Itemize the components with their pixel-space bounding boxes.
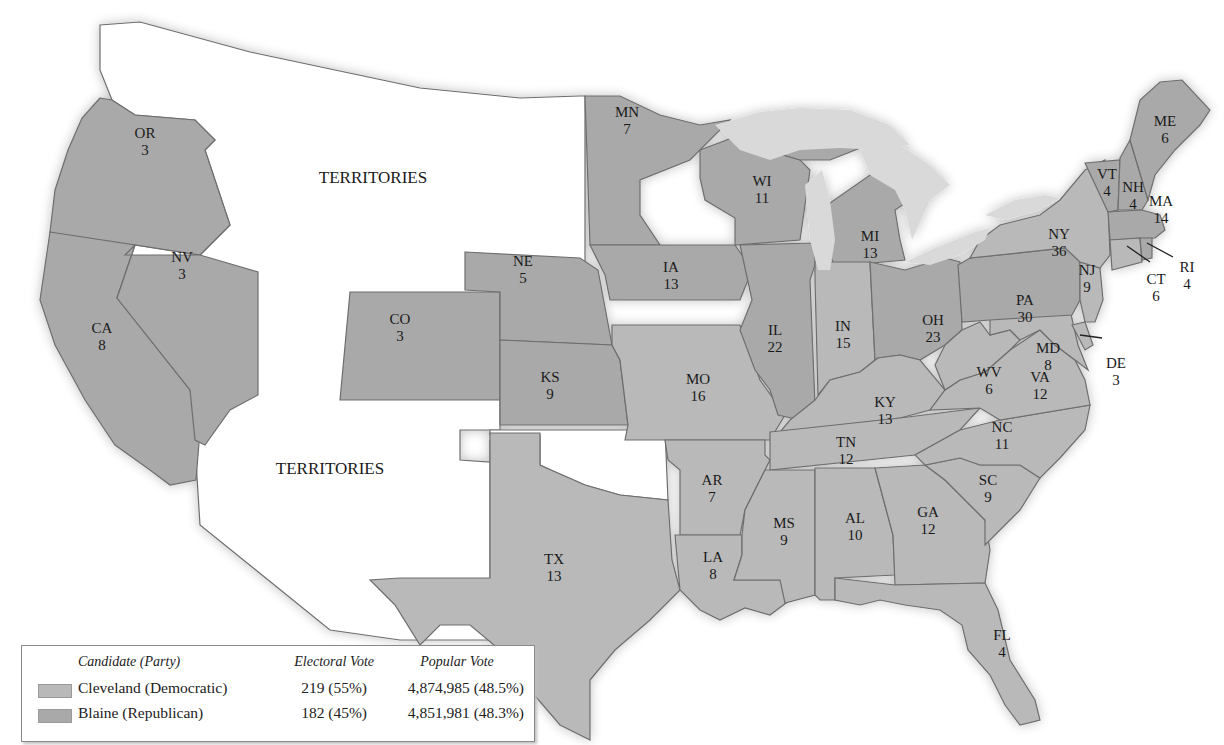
legend-header-candidate: Candidate (Party) bbox=[78, 654, 180, 670]
electoral-votes-me: 6 bbox=[1161, 130, 1169, 146]
state-label-ma: MA bbox=[1149, 193, 1173, 209]
state-label-wi: WI bbox=[752, 173, 771, 189]
electoral-votes-nv: 3 bbox=[178, 266, 186, 282]
legend-row-cleveland: Cleveland (Democratic) 219 (55%) 4,874,9… bbox=[22, 679, 534, 701]
electoral-votes-co: 3 bbox=[396, 328, 404, 344]
electoral-votes-de: 3 bbox=[1112, 372, 1120, 388]
legend-header: Candidate (Party) Electoral Vote Popular… bbox=[22, 654, 534, 676]
electoral-votes-fl: 4 bbox=[998, 644, 1006, 660]
legend: Candidate (Party) Electoral Vote Popular… bbox=[21, 645, 535, 742]
electoral-votes-ga: 12 bbox=[921, 521, 936, 537]
electoral-votes-al: 10 bbox=[848, 527, 863, 543]
electoral-votes-nc: 11 bbox=[995, 436, 1009, 452]
legend-swatch-republican bbox=[38, 709, 72, 723]
state-label-ga: GA bbox=[917, 504, 939, 520]
state-label-ar: AR bbox=[702, 472, 723, 488]
state-label-in: IN bbox=[835, 318, 851, 334]
electoral-votes-ia: 13 bbox=[664, 276, 679, 292]
state-label-me: ME bbox=[1154, 113, 1177, 129]
legend-row-blaine: Blaine (Republican) 182 (45%) 4,851,981 … bbox=[22, 704, 534, 726]
state-label-ms: MS bbox=[773, 515, 795, 531]
electoral-votes-ca: 8 bbox=[98, 337, 106, 353]
state-label-mn: MN bbox=[615, 104, 639, 120]
state-label-ri: RI bbox=[1180, 259, 1195, 275]
territories-label-south: TERRITORIES bbox=[276, 459, 384, 478]
electoral-votes-ri: 4 bbox=[1183, 276, 1191, 292]
state-label-vt: VT bbox=[1097, 166, 1117, 182]
state-label-sc: SC bbox=[979, 472, 997, 488]
electoral-votes-mi: 13 bbox=[863, 245, 878, 261]
state-label-fl: FL bbox=[993, 627, 1011, 643]
election-map: TERRITORIES TERRITORIES OR3CA8NV3CO3NE5K… bbox=[0, 0, 1224, 745]
legend-electoral: 182 (45%) bbox=[277, 704, 367, 722]
electoral-votes-md: 8 bbox=[1044, 357, 1052, 373]
legend-candidate: Cleveland (Democratic) bbox=[78, 679, 227, 697]
electoral-votes-nh: 4 bbox=[1129, 196, 1137, 212]
electoral-votes-tn: 12 bbox=[839, 451, 854, 467]
state-label-ca: CA bbox=[92, 320, 113, 336]
electoral-votes-mn: 7 bbox=[623, 121, 631, 137]
electoral-votes-la: 8 bbox=[709, 566, 717, 582]
state-label-il: IL bbox=[768, 322, 782, 338]
state-label-or: OR bbox=[135, 125, 156, 141]
electoral-votes-ny: 36 bbox=[1052, 243, 1068, 259]
state-label-ne: NE bbox=[513, 253, 533, 269]
state-label-co: CO bbox=[390, 311, 411, 327]
legend-popular: 4,851,981 (48.3%) bbox=[374, 704, 524, 722]
electoral-votes-ky: 13 bbox=[878, 411, 893, 427]
state-label-nj: NJ bbox=[1079, 262, 1096, 278]
state-fl bbox=[835, 578, 1040, 725]
state-label-al: AL bbox=[845, 510, 865, 526]
electoral-votes-il: 22 bbox=[768, 339, 783, 355]
legend-electoral: 219 (55%) bbox=[277, 679, 367, 697]
electoral-votes-or: 3 bbox=[141, 142, 149, 158]
state-label-md: MD bbox=[1036, 340, 1060, 356]
state-label-ny: NY bbox=[1048, 226, 1070, 242]
state-label-wv: WV bbox=[977, 364, 1002, 380]
state-label-nh: NH bbox=[1122, 179, 1144, 195]
state-label-mi: MI bbox=[861, 228, 879, 244]
electoral-votes-pa: 30 bbox=[1018, 309, 1033, 325]
state-label-oh: OH bbox=[922, 312, 944, 328]
state-label-nv: NV bbox=[171, 249, 193, 265]
electoral-votes-ms: 9 bbox=[780, 532, 788, 548]
state-label-de: DE bbox=[1106, 355, 1126, 371]
electoral-votes-sc: 9 bbox=[984, 489, 992, 505]
state-label-ia: IA bbox=[663, 259, 679, 275]
state-label-tx: TX bbox=[544, 551, 564, 567]
state-label-ct: CT bbox=[1146, 271, 1165, 287]
legend-header-popular: Popular Vote bbox=[392, 654, 522, 670]
electoral-votes-ct: 6 bbox=[1152, 288, 1160, 304]
state-label-mo: MO bbox=[686, 371, 710, 387]
electoral-votes-va: 12 bbox=[1033, 386, 1048, 402]
state-ks bbox=[500, 340, 628, 425]
electoral-votes-wi: 11 bbox=[755, 190, 769, 206]
legend-candidate: Blaine (Republican) bbox=[78, 704, 203, 722]
state-label-ky: KY bbox=[874, 394, 896, 410]
state-co bbox=[340, 292, 500, 400]
legend-swatch-democratic bbox=[38, 684, 72, 698]
territories-label-north: TERRITORIES bbox=[319, 168, 427, 187]
state-label-tn: TN bbox=[836, 434, 856, 450]
electoral-votes-wv: 6 bbox=[985, 381, 993, 397]
electoral-votes-ma: 14 bbox=[1154, 210, 1170, 226]
state-label-ks: KS bbox=[540, 369, 559, 385]
electoral-votes-mo: 16 bbox=[691, 388, 707, 404]
electoral-votes-oh: 23 bbox=[926, 329, 941, 345]
electoral-votes-ar: 7 bbox=[708, 489, 716, 505]
legend-popular: 4,874,985 (48.5%) bbox=[374, 679, 524, 697]
legend-header-electoral: Electoral Vote bbox=[274, 654, 374, 670]
electoral-votes-vt: 4 bbox=[1103, 183, 1111, 199]
electoral-votes-ks: 9 bbox=[546, 386, 554, 402]
electoral-votes-in: 15 bbox=[836, 335, 851, 351]
state-ct bbox=[1110, 238, 1142, 270]
electoral-votes-nj: 9 bbox=[1083, 279, 1091, 295]
state-label-la: LA bbox=[703, 549, 723, 565]
electoral-votes-tx: 13 bbox=[547, 568, 562, 584]
state-label-pa: PA bbox=[1016, 292, 1034, 308]
state-label-nc: NC bbox=[992, 419, 1013, 435]
electoral-votes-ne: 5 bbox=[519, 270, 527, 286]
